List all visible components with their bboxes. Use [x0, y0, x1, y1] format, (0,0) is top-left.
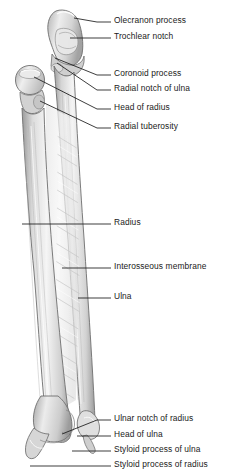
leader-line-olecranon-process [74, 18, 111, 22]
label-olecranon-process: Olecranon process [114, 16, 186, 25]
label-coronoid-process: Coronoid process [114, 69, 181, 78]
anatomy-figure: Olecranon processTrochlear notchCoronoid… [0, 0, 234, 473]
label-ulna: Ulna [114, 292, 132, 301]
label-head-of-ulna: Head of ulna [114, 430, 163, 439]
label-head-of-radius: Head of radius [114, 103, 170, 112]
label-ulnar-notch-of-radius: Ulnar notch of radius [114, 414, 193, 423]
label-trochlear-notch: Trochlear notch [114, 32, 173, 41]
label-styloid-process-of-ulna: Styloid process of ulna [114, 445, 201, 454]
label-radial-tuberosity: Radial tuberosity [114, 122, 178, 131]
label-interosseous-membrane: Interosseous membrane [114, 262, 206, 271]
label-styloid-process-of-radius: Styloid process of radius [114, 460, 208, 469]
label-radius: Radius [114, 218, 141, 227]
label-radial-notch-of-ulna: Radial notch of ulna [114, 84, 190, 93]
